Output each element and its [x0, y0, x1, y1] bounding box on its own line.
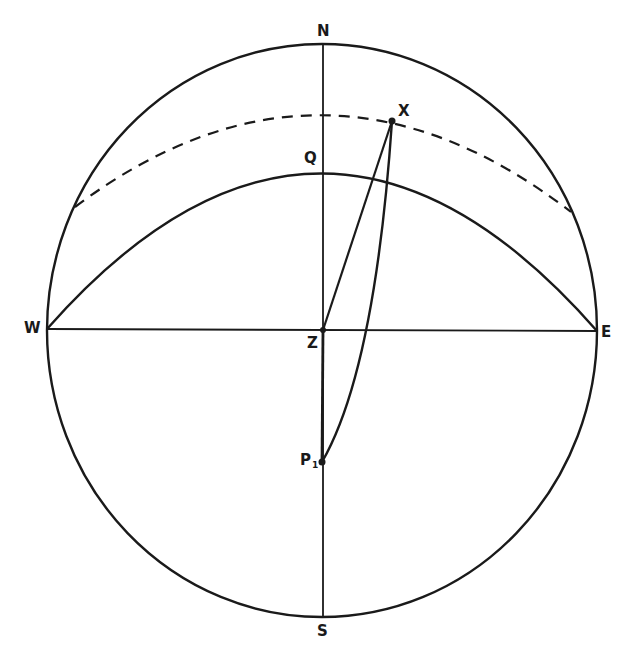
hour-circle-arc [322, 121, 392, 462]
label-e: E [601, 325, 611, 340]
label-x: X [398, 104, 410, 119]
label-q: Q [304, 151, 317, 166]
label-p: P [300, 451, 311, 469]
label-p1: P1 [300, 453, 318, 468]
celestial-sphere-diagram: N S W E Z Q X P1 [0, 0, 636, 671]
label-p-subscript: 1 [312, 460, 318, 470]
point-p1-dot [319, 459, 326, 466]
zenith-pole-segment [322, 330, 323, 462]
label-n: N [317, 24, 330, 39]
label-z: Z [307, 336, 318, 351]
diagram-canvas [0, 0, 636, 671]
equator-arc [47, 173, 597, 331]
point-z-dot [320, 327, 326, 333]
label-s: S [317, 624, 328, 639]
point-x-dot [389, 118, 396, 125]
label-w: W [24, 321, 41, 336]
